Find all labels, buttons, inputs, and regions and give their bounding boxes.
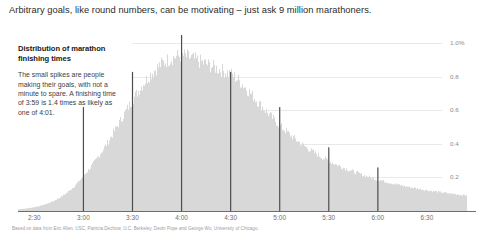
- spike-4-30: [230, 72, 231, 211]
- x-axis-label: 2:30: [28, 214, 41, 221]
- x-axis-label: 6:30: [421, 214, 434, 221]
- spike-6-00: [377, 167, 378, 211]
- spike-3-00: [83, 107, 84, 211]
- spike-4-00: [181, 35, 182, 211]
- annotation-body: The small spikes are people making their…: [18, 70, 122, 117]
- x-axis-label: 3:00: [77, 214, 90, 221]
- annotation-title: Distribution of marathon finishing times: [18, 44, 122, 63]
- x-axis-label: 5:00: [273, 214, 286, 221]
- headline: Arbitrary goals, like round numbers, can…: [9, 4, 372, 16]
- annotation-block: Distribution of marathon finishing times…: [18, 44, 122, 117]
- x-axis-label: 4:00: [175, 214, 188, 221]
- x-axis-label: 6:00: [371, 214, 384, 221]
- x-axis-label: 5:30: [322, 214, 335, 221]
- spike-5-00: [279, 107, 280, 211]
- x-axis-label: 4:30: [224, 214, 237, 221]
- x-axis-tick-labels: 2:303:003:304:004:305:005:306:006:30: [0, 212, 494, 226]
- source-note: Based on data from Eric Allen, USC, Patr…: [12, 226, 259, 231]
- spike-3-30: [132, 72, 133, 211]
- spike-5-30: [328, 147, 329, 211]
- x-axis-label: 3:30: [126, 214, 139, 221]
